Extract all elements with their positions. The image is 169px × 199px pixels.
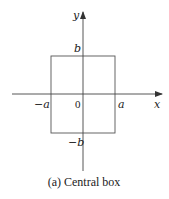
left-edge-label: −a <box>34 98 50 111</box>
origin-label: 0 <box>75 98 81 110</box>
central-box-diagram: y b −a 0 a x −b (a) Central box <box>0 0 169 199</box>
figure-caption: (a) Central box <box>48 175 121 189</box>
top-edge-label: b <box>74 42 81 55</box>
y-axis-label: y <box>72 9 80 22</box>
x-axis-label: x <box>154 98 161 111</box>
bottom-edge-label: −b <box>68 136 84 149</box>
right-edge-label: a <box>118 98 125 111</box>
